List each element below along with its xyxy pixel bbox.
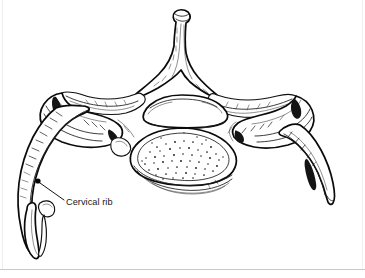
vertebral-body-outline [130,128,236,186]
bottom-border-rule [0,269,365,270]
cervical-rib-marker-dot [35,178,40,183]
rib-right-group [279,124,335,204]
spinous-process-outline [134,10,218,99]
cervical-rib-label: Cervical rib [66,197,113,207]
right-border-rule [362,0,363,269]
figure-container: Cervical rib [0,0,365,278]
cervical-rib-leader-line [40,183,64,200]
left-border-rule [2,0,3,269]
articular-facet-left [111,138,131,156]
cervical-rib-hook [39,201,55,217]
spinous-process-group [134,10,218,99]
cervical-vertebra-illustration: Cervical rib [0,0,365,278]
cervical-rib-lower-spur [39,215,47,256]
vertebral-body-group [130,128,236,194]
